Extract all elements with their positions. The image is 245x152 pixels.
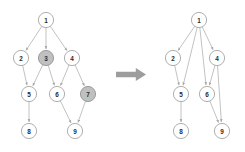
node-circle-2[interactable] [13,50,28,65]
node-circle-1[interactable] [38,12,53,27]
node-circle-8[interactable] [173,123,188,138]
node-circle-8[interactable] [21,123,36,138]
node-7[interactable]: 7 [80,86,95,101]
edge-2-to-5 [23,65,27,85]
node-6[interactable]: 6 [199,86,214,101]
edge-group [23,26,86,123]
edge-2-to-5 [175,65,179,85]
node-8[interactable]: 8 [173,123,188,138]
node-3[interactable]: 3 [38,50,53,65]
edge-4-to-6 [209,65,215,85]
node-5[interactable]: 5 [173,86,188,101]
node-1[interactable]: 1 [38,12,53,27]
node-1[interactable]: 1 [191,12,206,27]
edge-1-to-2 [26,26,42,50]
edge-1-to-4 [50,26,67,50]
node-9[interactable]: 9 [67,123,82,138]
edge-4-to-7 [75,65,84,86]
node-9[interactable]: 9 [214,123,229,138]
graph-transformation-figure: 123456789 1245689 [0,0,245,152]
edge-1-to-4 [202,27,213,50]
edge-6-to-9 [210,101,219,123]
node-circle-4[interactable] [64,50,79,65]
edge-1-to-5 [183,27,197,85]
edge-group [175,26,222,122]
edge-4-to-6 [60,65,69,86]
edge-3-to-5 [33,65,43,86]
diagram-canvas: 123456789 1245689 [0,0,245,152]
node-circle-6[interactable] [199,86,214,101]
reduced-graph: 1245689 [165,12,229,138]
node-4[interactable]: 4 [209,50,224,65]
node-circle-4[interactable] [209,50,224,65]
right-arrow-icon [116,68,146,81]
node-circle-3[interactable] [38,50,53,65]
node-circle-9[interactable] [214,123,229,138]
node-8[interactable]: 8 [21,123,36,138]
node-circle-7[interactable] [80,86,95,101]
right-arrow-icon [116,68,146,81]
node-4[interactable]: 4 [64,50,79,65]
node-circle-5[interactable] [173,86,188,101]
edge-3-to-6 [48,65,54,85]
edge-6-to-9 [60,101,71,123]
edge-7-to-9 [78,101,85,122]
node-circle-5[interactable] [21,86,36,101]
edge-4-to-9 [218,66,222,122]
node-5[interactable]: 5 [21,86,36,101]
node-circle-9[interactable] [67,123,82,138]
node-2[interactable]: 2 [165,50,180,65]
edge-1-to-6 [200,28,206,85]
node-6[interactable]: 6 [49,86,64,101]
original-graph: 123456789 [13,12,95,138]
node-circle-6[interactable] [49,86,64,101]
node-circle-1[interactable] [191,12,206,27]
node-2[interactable]: 2 [13,50,28,65]
node-circle-2[interactable] [165,50,180,65]
